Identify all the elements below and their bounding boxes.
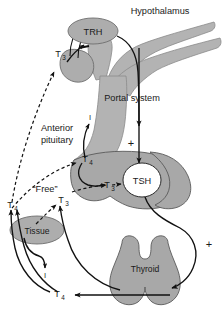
t4-pituitary-sub: 4	[89, 159, 93, 166]
pituitary-iodine-label: I	[89, 113, 91, 122]
diagram-canvas: TRH Tissue TSH +	[0, 0, 224, 317]
thyroid-label: Thyroid	[131, 264, 160, 274]
tissue-iodine-label: I	[44, 271, 46, 280]
t3-pituitary-base: T	[104, 180, 110, 190]
plus-sign-thyroid: +	[206, 238, 212, 250]
t3-pituitary-sub: 3	[111, 185, 115, 192]
t3-hypothalamus-base: T	[55, 49, 61, 59]
free-label: “Free”	[32, 184, 57, 194]
anterior-pituitary-label-line2: pituitary	[41, 135, 74, 145]
trh-label: TRH	[84, 27, 103, 37]
t4-free-label-group: T 4	[7, 200, 18, 212]
t4-free-base: T	[7, 200, 13, 210]
trh-node: TRH	[68, 18, 118, 44]
hypothalamus-label: Hypothalamus	[131, 6, 190, 16]
t3-hypothalamus-sub: 3	[62, 54, 66, 61]
t3-free-label-group: T 3	[58, 195, 69, 207]
plus-sign-portal: +	[128, 137, 134, 149]
t4-thyroid-output-sub: 4	[61, 294, 65, 301]
tsh-node: TSH	[123, 163, 161, 197]
tsh-label: TSH	[133, 176, 151, 186]
anterior-pituitary-label-line1: Anterior	[41, 123, 73, 133]
portal-system-label: Portal system	[104, 93, 160, 103]
t4-pituitary-base: T	[82, 154, 88, 164]
minus-bar-trh	[79, 46, 89, 48]
t3-free-base: T	[58, 195, 64, 205]
t3-free-sub: 3	[65, 200, 69, 207]
t4-free-sub: 4	[14, 205, 18, 212]
tissue-label: Tissue	[25, 226, 50, 236]
hpt-axis-diagram: TRH Tissue TSH +	[0, 0, 224, 317]
